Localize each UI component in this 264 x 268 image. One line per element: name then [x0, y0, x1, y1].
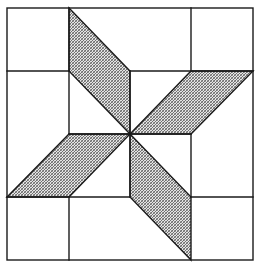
quilt-block-diagram [0, 0, 264, 268]
